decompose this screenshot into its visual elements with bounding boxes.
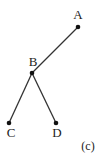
node-a-dot (76, 25, 81, 30)
edge-b-c (9, 73, 32, 123)
figure-caption: (c) (81, 139, 94, 153)
node-b-label: B (29, 54, 38, 69)
node-a-label: A (73, 7, 83, 22)
edge-b-d (32, 73, 56, 123)
node-c-label: C (7, 125, 16, 140)
edge-a-b (32, 27, 78, 73)
node-d-label: D (52, 125, 61, 140)
tree-diagram: A B C D (c) (0, 0, 102, 162)
node-b-dot (30, 71, 35, 76)
